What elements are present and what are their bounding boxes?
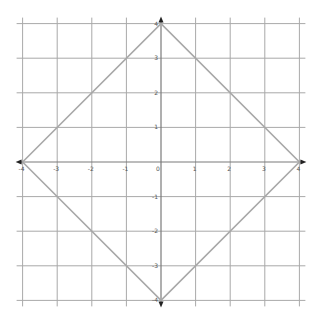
- arrow-right-icon: [300, 160, 306, 165]
- y-tick-label: -1: [152, 193, 158, 200]
- x-tick-label: 3: [262, 165, 266, 172]
- y-tick-label: 3: [154, 54, 158, 61]
- x-tick-label: -3: [53, 165, 59, 172]
- x-tick-label: -1: [122, 165, 128, 172]
- y-tick-label: -2: [152, 227, 158, 234]
- arrow-down-icon: [159, 301, 164, 307]
- x-tick-label: -4: [19, 165, 25, 172]
- x-tick-label: 1: [193, 165, 197, 172]
- arrow-left-icon: [16, 160, 22, 165]
- y-tick-label: 4: [154, 20, 158, 27]
- x-tick-label: 0: [156, 165, 160, 172]
- axes: [16, 17, 307, 308]
- x-tick-label: 2: [227, 165, 231, 172]
- y-tick-label: 1: [154, 123, 158, 130]
- coordinate-plane: -4-3-2-101234-4-3-2-11234: [0, 0, 319, 323]
- x-tick-label: -2: [88, 165, 94, 172]
- y-tick-label: 2: [154, 89, 158, 96]
- x-tick-label: 4: [296, 165, 300, 172]
- y-tick-label: -3: [152, 262, 158, 269]
- arrow-up-icon: [159, 17, 164, 23]
